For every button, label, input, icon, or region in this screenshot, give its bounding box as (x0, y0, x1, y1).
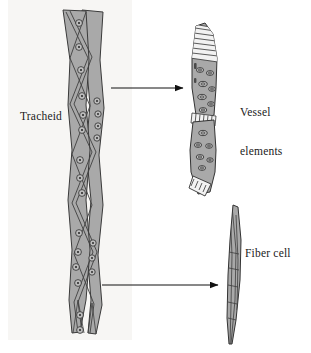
label-vessel-line2: elements (240, 145, 282, 158)
perforation-plate-top (190, 24, 218, 62)
xylem-cell-diagram: Tracheid Vessel elements Fiber cell (0, 0, 311, 353)
tracheid-structure (63, 10, 104, 334)
fiber-cell-structure (227, 205, 241, 344)
label-fiber-cell: Fiber cell (245, 247, 291, 260)
label-tracheid: Tracheid (20, 110, 62, 123)
label-vessel-elements: Vessel elements (240, 80, 282, 184)
label-vessel-line1: Vessel (240, 106, 282, 119)
vessel-elements-structure (189, 23, 218, 196)
